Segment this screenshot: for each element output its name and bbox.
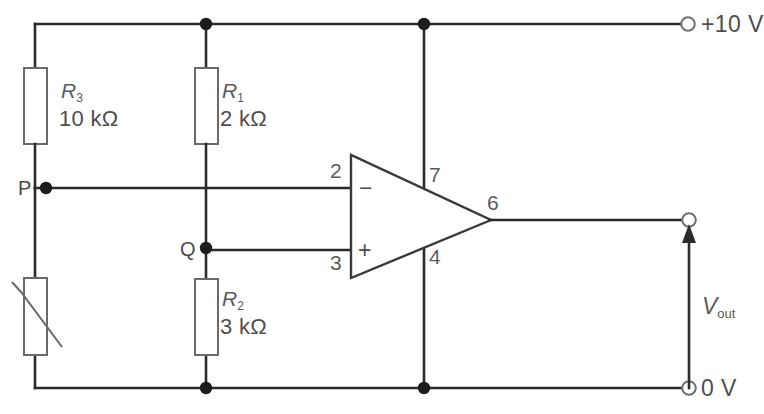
opamp-pin-label-7: 7 (429, 164, 441, 185)
circuit-diagram-canvas: R3 10 kΩ R1 2 kΩ R2 3 kΩ P Q 2 3 7 4 6 −… (0, 0, 764, 414)
output-branch (490, 213, 696, 388)
r1-body (195, 68, 218, 144)
r3-value-label: 10 kΩ (59, 108, 119, 130)
opamp-inverting-sign: − (359, 177, 372, 200)
resistor-r3 (24, 68, 47, 188)
node-label-p: P (18, 178, 31, 198)
opamp-symbol (351, 155, 491, 278)
junction-dot-bottom-opamp (418, 382, 430, 394)
opamp-noninverting-sign: + (358, 239, 371, 262)
terminal-positive-supply (681, 17, 695, 31)
opamp-pin-label-6: 6 (487, 192, 499, 213)
junction-dot-node-p (40, 182, 52, 194)
opamp-triangle-body (351, 155, 491, 278)
supply-positive-label: +10 V (701, 13, 764, 36)
resistor-r1 (195, 68, 218, 248)
thermistor-component (12, 188, 62, 355)
r2-value-label: 3 kΩ (220, 316, 267, 338)
resistor-r2 (195, 248, 218, 355)
r3-name-label: R3 (61, 80, 83, 104)
supply-zero-label: 0 V (701, 377, 737, 400)
opamp-pin-label-2: 2 (330, 160, 342, 181)
opamp-pin-label-3: 3 (330, 252, 342, 273)
junction-dot-bottom-r2 (200, 382, 212, 394)
r2-body (195, 279, 218, 355)
junction-dot-node-q (200, 242, 212, 254)
circuit-schematic-svg (0, 0, 764, 414)
junction-dot-top-r1 (200, 18, 212, 30)
thermistor-body (24, 278, 47, 355)
node-label-q: Q (180, 239, 196, 259)
r2-name-label: R2 (222, 288, 244, 312)
r1-name-label: R1 (222, 80, 244, 104)
r1-value-label: 2 kΩ (220, 108, 267, 130)
vout-arrow-head (682, 224, 696, 243)
node-p-branch (35, 182, 352, 194)
r3-body (24, 68, 47, 144)
output-voltage-label: Vout (702, 295, 735, 320)
junction-dot-top-opamp (418, 18, 430, 30)
opamp-pin-label-4: 4 (429, 246, 441, 267)
